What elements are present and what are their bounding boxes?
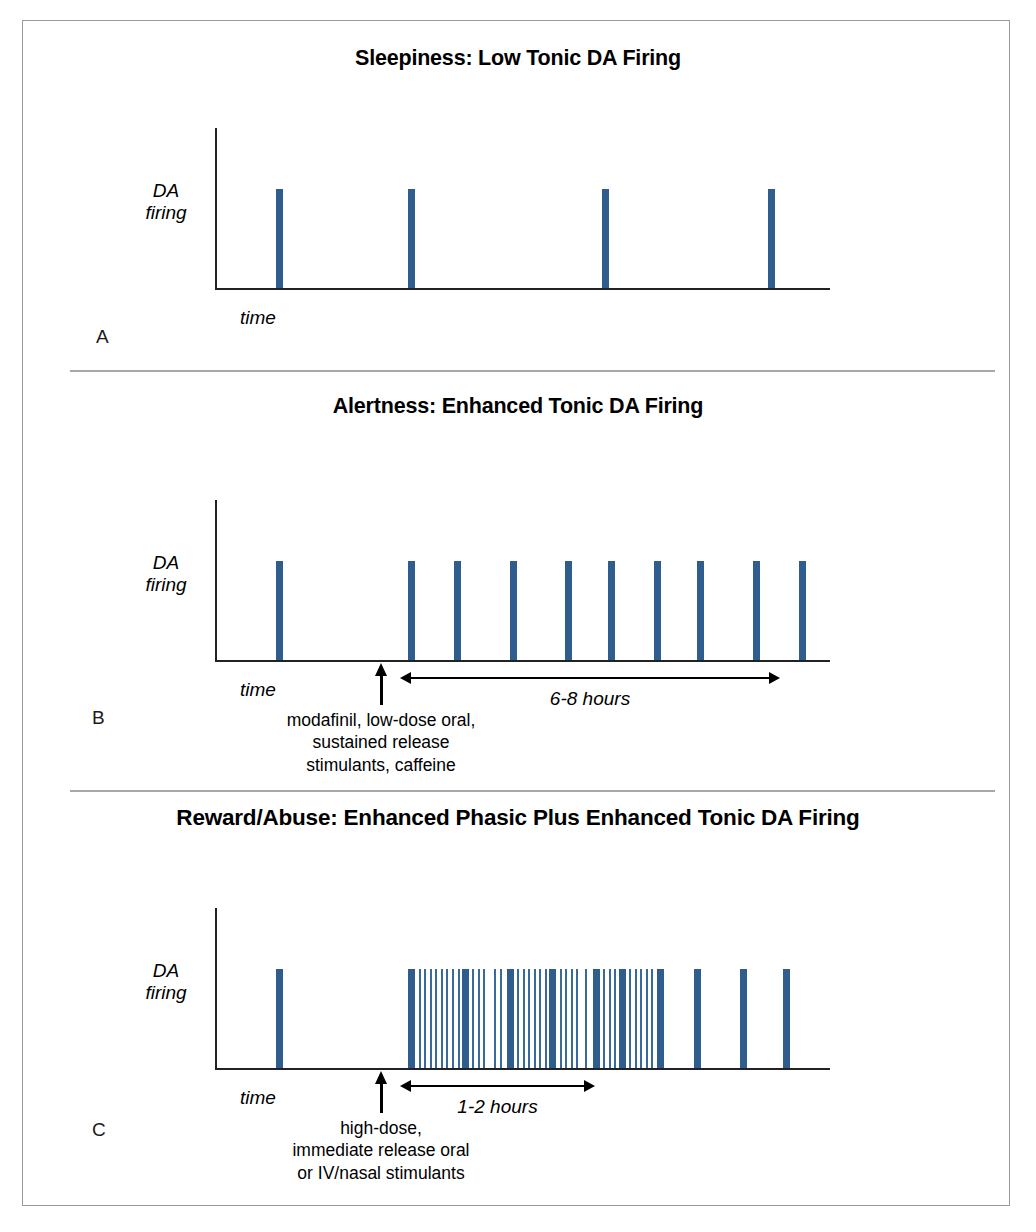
spike-phasic [640,969,642,1068]
spike-phasic [585,969,587,1068]
spike-tonic [697,561,704,660]
panel-c-duration-line [409,1085,586,1087]
panel-b-duration-arrow [400,670,780,686]
panel-c-plot: DA firing time high-dose, immediate rele… [0,795,1036,1205]
spike-phasic [446,969,448,1068]
panel-c-x-axis [215,1068,830,1070]
panel-b: Alertness: Enhanced Tonic DA Firing B DA… [0,380,1036,790]
spike-phasic [424,969,426,1068]
panel-c-y-axis-label: DA firing [126,960,206,1005]
spike-tonic [602,189,609,288]
panel-b-x-axis-label: time [240,679,276,701]
spike-phasic [528,969,530,1068]
spike-tonic [799,561,806,660]
panel-divider-b-c [70,790,995,792]
spike-phasic [441,969,443,1068]
spike-phasic [571,969,573,1068]
panel-divider-a-b [70,370,995,372]
panel-b-duration-label: 6-8 hours [400,688,780,710]
spike-phasic [500,969,502,1068]
spike-phasic [603,969,605,1068]
spike-tonic [657,969,664,1068]
spike-tonic [507,969,514,1068]
spike-tonic [454,561,461,660]
panel-b-y-axis [215,500,217,660]
spike-phasic [534,969,536,1068]
spike-phasic [523,969,525,1068]
spike-tonic [276,561,283,660]
spike-phasic [629,969,631,1068]
panel-a-y-axis [215,128,217,288]
panel-b-x-axis [215,660,830,662]
spike-phasic [494,969,496,1068]
spike-phasic [635,969,637,1068]
panel-c-duration-label: 1-2 hours [400,1096,595,1118]
spike-tonic [408,969,415,1068]
spike-tonic [619,969,626,1068]
panel-a-x-axis [215,288,830,290]
spike-phasic [565,969,567,1068]
panel-c-duration-arrowhead-right [584,1080,595,1092]
panel-b-y-axis-label: DA firing [126,552,206,597]
spike-phasic [452,969,454,1068]
spike-phasic [478,969,480,1068]
spike-phasic [419,969,421,1068]
spike-tonic [593,969,600,1068]
panel-c-dose-arrow-shaft [380,1081,383,1113]
spike-phasic [609,969,611,1068]
spike-phasic [539,969,541,1068]
panel-a: Sleepiness: Low Tonic DA Firing A DA fir… [0,20,1036,370]
spike-tonic [276,969,283,1068]
spike-tonic [549,969,556,1068]
panel-b-duration-line [409,677,771,679]
spike-phasic [435,969,437,1068]
panel-b-plot: DA firing time modafinil, low-dose oral,… [0,380,1036,790]
spike-phasic [576,969,578,1068]
panel-b-dose-arrow [373,663,389,705]
spike-tonic [694,969,701,1068]
spike-phasic [472,969,474,1068]
spike-tonic [276,189,283,288]
panel-c-dose-arrow [373,1071,389,1113]
panel-a-plot: DA firing time [0,20,1036,370]
panel-c-duration-arrow [400,1078,595,1094]
spike-phasic [651,969,653,1068]
spike-tonic [608,561,615,660]
spike-tonic [408,189,415,288]
panel-c-y-axis [215,908,217,1068]
spike-phasic [646,969,648,1068]
spike-tonic [740,969,747,1068]
spike-tonic [654,561,661,660]
spike-phasic [545,969,547,1068]
spike-tonic [510,561,517,660]
spike-phasic [430,969,432,1068]
panel-a-y-axis-label: DA firing [126,180,206,225]
spike-tonic [783,969,790,1068]
spike-tonic [462,969,469,1068]
spike-phasic [483,969,485,1068]
spike-phasic [614,969,616,1068]
spike-tonic [408,561,415,660]
panel-c-x-axis-label: time [240,1087,276,1109]
spike-phasic [517,969,519,1068]
panel-a-x-axis-label: time [240,307,276,329]
panel-b-dose-caption: modafinil, low-dose oral, sustained rele… [266,709,496,776]
spike-tonic [753,561,760,660]
panel-c: Reward/Abuse: Enhanced Phasic Plus Enhan… [0,795,1036,1205]
spike-phasic [458,969,460,1068]
spike-tonic [565,561,572,660]
figure-root: Sleepiness: Low Tonic DA Firing A DA fir… [0,0,1036,1232]
spike-phasic [560,969,562,1068]
panel-b-dose-arrow-shaft [380,673,383,705]
panel-b-duration-arrowhead-right [769,672,780,684]
spike-tonic [768,189,775,288]
panel-c-dose-caption: high-dose, immediate release oral or IV/… [266,1117,496,1184]
